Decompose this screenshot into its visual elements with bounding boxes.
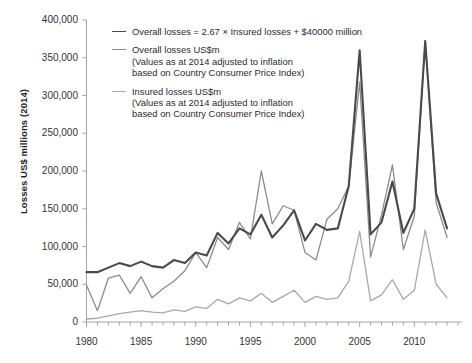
y-axis-tick-labels: 050,000100,000150,000200,000250,000300,0…	[18, 0, 78, 363]
y-axis-tick-label: 100,000	[22, 242, 78, 252]
legend-item-sublabel: based on Country Consumer Price Index)	[132, 108, 412, 119]
x-axis-tick-label: 2005	[340, 336, 380, 347]
x-axis-tick-label: 1990	[176, 336, 216, 347]
y-axis-tick-label: 50,000	[22, 279, 78, 289]
x-axis-tick-label: 2000	[285, 336, 325, 347]
legend-item-label: Insured losses US$m	[132, 86, 412, 97]
legend-line-swatch	[112, 49, 126, 50]
y-axis-tick-label: 0	[22, 317, 78, 327]
legend-item-sublabel: (Values as at 2014 adjusted to inflation	[132, 97, 412, 108]
legend-item-label: Overall losses = 2.67 × Insured losses +…	[132, 26, 412, 37]
legend-item: Insured losses US$m(Values as at 2014 ad…	[112, 86, 412, 120]
chart-container: Losses US$ millions (2014) 050,000100,00…	[0, 0, 472, 363]
y-axis-tick-label: 400,000	[22, 15, 78, 25]
y-axis-tick-label: 350,000	[22, 53, 78, 63]
legend-item-sublabel: based on Country Consumer Price Index)	[132, 67, 412, 78]
y-axis-tick-label: 200,000	[22, 166, 78, 176]
y-axis-tick-label: 150,000	[22, 204, 78, 214]
x-axis-tick-label: 1980	[67, 336, 107, 347]
x-axis-tick-label: 1995	[230, 336, 270, 347]
legend-line-swatch	[112, 31, 126, 32]
legend-item: Overall losses US$m(Values as at 2014 ad…	[112, 44, 412, 78]
series-line	[87, 230, 448, 319]
legend-line-swatch	[112, 91, 126, 92]
y-axis-tick-label: 300,000	[22, 91, 78, 101]
y-axis-tick-label: 250,000	[22, 128, 78, 138]
chart-legend: Overall losses = 2.67 × Insured losses +…	[112, 26, 412, 127]
legend-item: Overall losses = 2.67 × Insured losses +…	[112, 26, 412, 37]
legend-item-label: Overall losses US$m	[132, 44, 412, 55]
x-axis-tick-label: 1985	[121, 336, 161, 347]
legend-item-sublabel: (Values as at 2014 adjusted to inflation	[132, 56, 412, 67]
x-axis-tick-label: 2010	[394, 336, 434, 347]
